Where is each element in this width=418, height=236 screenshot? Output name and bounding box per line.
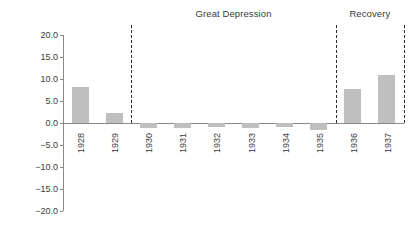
- separator-line-depression-start: [131, 25, 132, 123]
- bar-1937: [378, 75, 395, 123]
- separator-line-depression-end: [336, 25, 337, 123]
- bar-chart: Great Depression Recovery 20.015.010.05.…: [0, 0, 418, 236]
- x-tick-label-1936: 1936: [349, 133, 359, 153]
- x-tick-label-1935: 1935: [315, 133, 325, 153]
- y-tick-label: 0.0: [16, 118, 58, 128]
- bar-1932: [208, 123, 225, 127]
- x-tick-label-1934: 1934: [281, 133, 291, 153]
- x-tick-label-1931: 1931: [178, 133, 188, 153]
- y-tick-label: −5.0: [16, 140, 58, 150]
- y-tick-mark: [60, 101, 63, 102]
- separator-line-recovery-end: [404, 25, 405, 123]
- y-tick-mark: [60, 57, 63, 58]
- bar-1935: [310, 123, 327, 130]
- bar-1929: [106, 113, 123, 123]
- x-tick-label-1932: 1932: [212, 133, 222, 153]
- y-tick-mark: [60, 35, 63, 36]
- x-tick-label-1930: 1930: [144, 133, 154, 153]
- y-tick-mark: [60, 167, 63, 168]
- x-tick-label-1928: 1928: [76, 133, 86, 153]
- y-tick-mark: [60, 211, 63, 212]
- y-tick-label: 15.0: [16, 52, 58, 62]
- bar-1934: [276, 123, 293, 127]
- y-tick-label: −15.0: [16, 184, 58, 194]
- y-tick-label: 10.0: [16, 74, 58, 84]
- y-tick-label: 20.0: [16, 30, 58, 40]
- x-tick-label-1929: 1929: [110, 133, 120, 153]
- bar-1928: [72, 87, 89, 123]
- bar-1933: [242, 123, 259, 128]
- annotation-label-recovery: Recovery: [349, 8, 390, 19]
- bar-1936: [344, 89, 361, 123]
- zero-baseline: [63, 123, 404, 124]
- y-tick-label: −20.0: [16, 206, 58, 216]
- x-tick-label-1933: 1933: [247, 133, 257, 153]
- y-tick-mark: [60, 145, 63, 146]
- y-tick-mark: [60, 189, 63, 190]
- y-tick-label: −10.0: [16, 162, 58, 172]
- bar-1931: [174, 123, 191, 128]
- y-tick-label: 5.0: [16, 96, 58, 106]
- annotation-label-great-depression: Great Depression: [196, 8, 272, 19]
- bar-1930: [140, 123, 157, 128]
- y-tick-mark: [60, 79, 63, 80]
- x-tick-label-1937: 1937: [383, 133, 393, 153]
